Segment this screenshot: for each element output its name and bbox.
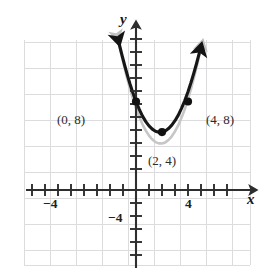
x-tick-label-4: 4: [185, 197, 192, 211]
x-axis-name: x: [247, 192, 255, 207]
graph-canvas: [0, 0, 275, 280]
shifted-parabola-main: [119, 44, 201, 132]
point-marker-4-8: [184, 97, 192, 105]
annotation-point-4-8: (4, 8): [206, 113, 234, 126]
y-tick-label-minus-4: −4: [108, 211, 122, 225]
annotation-point-0-8: (0, 8): [57, 113, 85, 126]
x-tick-label-minus-4: −4: [43, 197, 57, 211]
point-marker-0-8: [132, 97, 140, 105]
parabola-graph-figure: (0, 8) (2, 4) (4, 8) −4 4 −4 x y: [0, 0, 275, 280]
annotation-point-2-4: (2, 4): [148, 154, 176, 167]
point-marker-2-4: [158, 128, 166, 136]
y-axis-name: y: [120, 12, 127, 27]
axes: [26, 22, 256, 268]
